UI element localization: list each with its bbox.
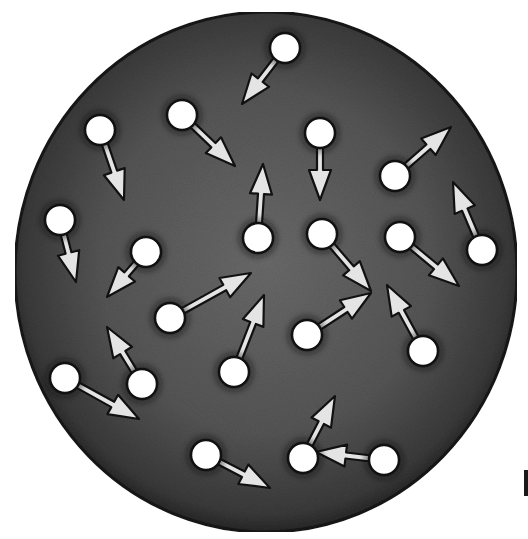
molecule [219, 357, 249, 387]
molecule [292, 320, 322, 350]
molecule [270, 33, 300, 63]
edge-mark [524, 470, 528, 496]
molecule [288, 443, 318, 473]
molecule [380, 161, 410, 191]
molecule [243, 223, 273, 253]
molecule [191, 440, 221, 470]
molecule [305, 118, 335, 148]
molecule [85, 115, 115, 145]
molecule [467, 235, 497, 265]
molecule [385, 222, 415, 252]
molecule [131, 237, 161, 267]
molecule [307, 219, 337, 249]
molecule [127, 369, 157, 399]
molecule [45, 205, 75, 235]
molecule [167, 100, 197, 130]
gas-molecules-diagram [0, 0, 528, 539]
molecule [369, 445, 399, 475]
molecule [408, 336, 438, 366]
molecule [155, 303, 185, 333]
molecule [50, 363, 80, 393]
